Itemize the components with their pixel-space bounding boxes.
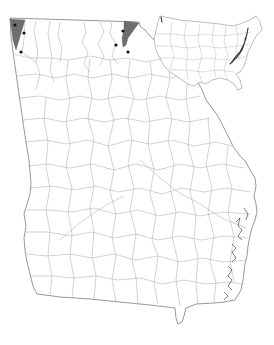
occurrence-dot	[121, 29, 124, 32]
occurrence-dot	[22, 31, 25, 34]
occurrence-dot	[114, 43, 117, 46]
georgia-county-map	[0, 0, 274, 345]
occurrence-dot	[19, 50, 22, 53]
occurrence-dot	[13, 23, 16, 26]
occurrence-dot	[126, 50, 129, 53]
species-distribution-map	[0, 0, 274, 345]
